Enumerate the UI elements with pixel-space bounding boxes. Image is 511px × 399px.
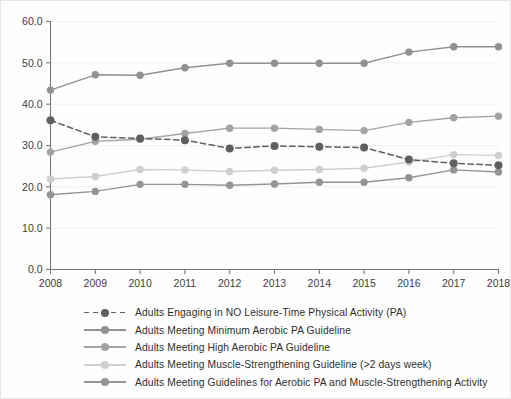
legend-swatch-icon [84,376,126,388]
data-point-marker [271,142,279,150]
y-tick-label: 40.0 [22,98,43,110]
y-tick-label: 50.0 [22,57,43,69]
legend-swatch-icon [84,324,126,336]
data-point-marker [495,152,502,159]
x-tick-label: 2017 [442,277,466,289]
data-point-marker [360,127,367,134]
data-point-marker [405,119,412,126]
data-point-marker [226,144,234,152]
data-point-marker [495,161,503,169]
series-line [51,47,499,90]
y-tick-label: 20.0 [22,181,43,193]
data-point-marker [315,143,323,151]
data-point-marker [47,148,54,155]
x-tick-label: 2018 [487,277,511,289]
data-point-marker [405,174,412,181]
y-tick-label: 30.0 [22,139,43,151]
x-tick-label: 2008 [39,277,63,289]
legend-label: Adults Meeting Minimum Aerobic PA Guidel… [135,325,351,336]
data-point-marker [450,166,457,173]
legend-item[interactable]: Adults Meeting High Aerobic PA Guideline [84,339,511,356]
data-point-marker [226,60,233,67]
data-point-marker [405,156,413,164]
data-point-marker [92,173,99,180]
data-point-marker [226,168,233,175]
legend-item[interactable]: Adults Meeting Muscle-Strengthening Guid… [84,356,511,373]
legend-swatch-icon [84,341,126,353]
data-point-marker [495,168,502,175]
data-point-marker [360,165,367,172]
data-point-marker [360,60,367,67]
data-point-marker [316,166,323,173]
data-point-marker [271,180,278,187]
x-tick-label: 2011 [174,277,197,289]
legend-swatch-icon [84,359,126,371]
data-point-marker [450,114,457,121]
x-tick-label: 2013 [263,277,287,289]
legend-marker-dot [101,378,109,386]
data-point-marker [495,43,502,50]
data-point-marker [495,112,502,119]
data-point-marker [360,144,368,152]
data-point-marker [226,181,233,188]
legend-label: Adults Meeting Guidelines for Aerobic PA… [135,377,488,388]
legend-item[interactable]: Adults Engaging in NO Leisure-Time Physi… [84,304,511,321]
y-tick-label: 10.0 [22,222,43,234]
data-point-marker [47,191,54,198]
data-point-marker [181,181,188,188]
legend-marker-dot [101,309,109,317]
data-point-marker [181,166,188,173]
data-point-marker [360,179,367,186]
data-point-marker [226,124,233,131]
legend-item[interactable]: Adults Meeting Minimum Aerobic PA Guidel… [84,321,511,338]
data-point-marker [136,134,144,142]
data-point-marker [316,60,323,67]
data-point-marker [450,159,458,167]
data-point-marker [316,126,323,133]
data-point-marker [450,43,457,50]
legend-swatch-icon [84,307,126,319]
legend-label: Adults Meeting Muscle-Strengthening Guid… [135,359,432,370]
data-point-marker [181,136,189,144]
data-point-marker [181,130,188,137]
data-point-marker [92,71,99,78]
x-tick-label: 2009 [84,277,108,289]
x-tick-label: 2014 [308,277,332,289]
legend-label: Adults Engaging in NO Leisure-Time Physi… [135,307,406,318]
data-point-marker [450,151,457,158]
data-point-marker [47,86,54,93]
legend-label: Adults Meeting High Aerobic PA Guideline [135,342,330,353]
data-point-marker [136,166,143,173]
data-point-marker [91,133,99,141]
data-point-marker [47,175,54,182]
legend-item[interactable]: Adults Meeting Guidelines for Aerobic PA… [84,374,511,391]
data-point-marker [405,48,412,55]
data-point-marker [271,124,278,131]
data-point-marker [271,60,278,67]
y-tick-label: 60.0 [22,15,43,27]
data-point-marker [181,64,188,71]
data-point-marker [47,116,55,124]
x-tick-label: 2010 [128,277,152,289]
data-point-marker [316,179,323,186]
data-point-marker [92,188,99,195]
x-tick-label: 2016 [397,277,421,289]
legend-marker-dot [101,326,109,334]
chart-figure: 0.010.020.030.040.050.060.02008200920102… [0,0,511,399]
legend-marker-dot [101,361,109,369]
y-tick-label: 0.0 [28,263,43,275]
data-point-marker [271,167,278,174]
chart-legend: Adults Engaging in NO Leisure-Time Physi… [84,304,511,391]
x-tick-label: 2015 [352,277,376,289]
data-point-marker [136,72,143,79]
data-point-marker [136,181,143,188]
legend-marker-dot [101,343,109,351]
x-tick-label: 2012 [218,277,242,289]
